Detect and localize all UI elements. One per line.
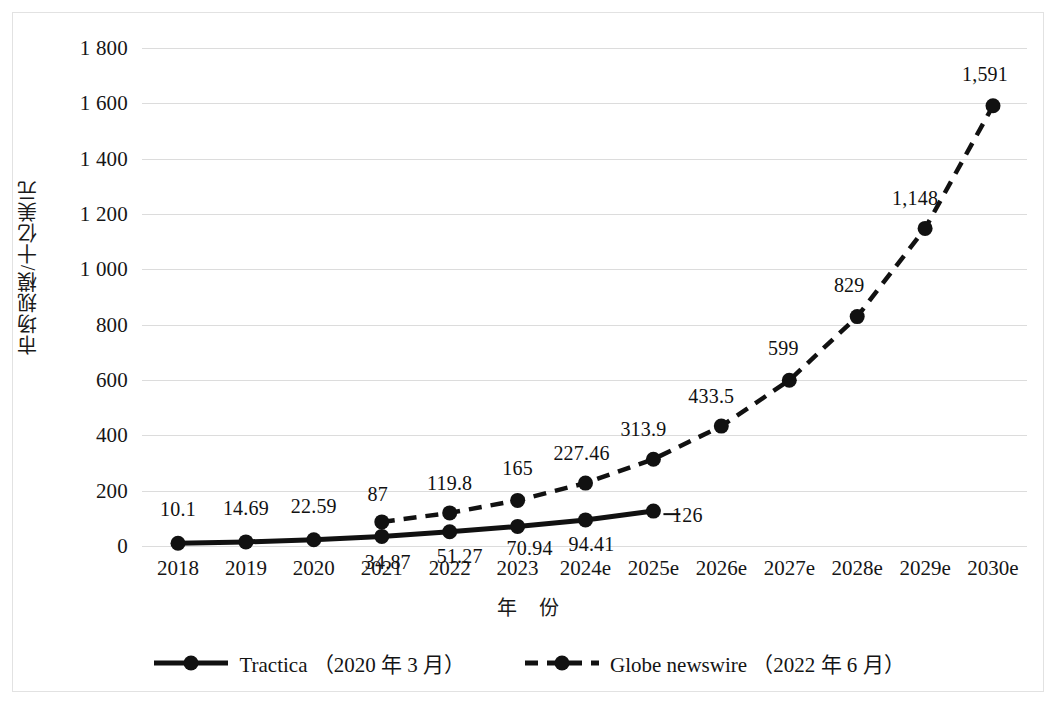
data-point-marker <box>646 504 661 519</box>
data-point-label: 10.1 <box>160 498 196 521</box>
data-point-marker <box>986 98 1001 113</box>
data-point-label: 94.41 <box>569 532 615 555</box>
x-axis-title: 年 份 <box>0 592 1057 621</box>
data-point-marker <box>374 514 389 529</box>
data-point-marker <box>510 519 525 534</box>
chart-legend: Tractica （2020 年 3 月）Globe newswire （202… <box>0 648 1057 678</box>
data-point-label: 165 <box>502 457 533 480</box>
chart-figure: 市场规模/十亿美元 02004006008001 0001 2001 4001 … <box>0 0 1057 704</box>
data-point-marker <box>918 221 933 236</box>
data-point-marker <box>171 536 186 551</box>
data-point-label: 1,148 <box>892 187 938 210</box>
legend-item[interactable]: Globe newswire （2022 年 6 月） <box>523 648 905 678</box>
data-point-label: 829 <box>834 273 865 296</box>
legend-dashed-line-icon <box>523 654 601 672</box>
data-point-marker <box>714 419 729 434</box>
data-point-marker <box>238 534 253 549</box>
y-axis-tick-label: 1 800 <box>80 36 128 61</box>
legend-item[interactable]: Tractica （2020 年 3 月） <box>152 648 465 678</box>
y-axis-tick-label: 0 <box>117 534 128 559</box>
data-point-label: 119.8 <box>427 471 472 494</box>
data-point-label: 313.9 <box>620 418 666 441</box>
y-axis-tick-labels: 02004006008001 0001 2001 4001 6001 800 <box>60 48 128 546</box>
data-point-marker <box>442 524 457 539</box>
x-axis-tick-label: 2018 <box>157 556 199 581</box>
x-axis-tick-label: 2029e <box>899 556 950 581</box>
data-point-label: 599 <box>768 337 799 360</box>
x-axis-tick-label: 2021 <box>361 556 403 581</box>
data-point-marker <box>578 512 593 527</box>
y-axis-tick-label: 1 400 <box>80 146 128 171</box>
x-axis-tick-label: 2024e <box>560 556 611 581</box>
x-axis-tick-label: 2030e <box>967 556 1018 581</box>
y-axis-title: 市场规模/十亿美元 <box>18 180 52 355</box>
x-axis-tick-label: 2019 <box>225 556 267 581</box>
x-axis-tick-labels: 2018201920202021202220232024e2025e2026e2… <box>142 556 1027 586</box>
legend-item-label: Globe newswire （2022 年 6 月） <box>610 648 905 678</box>
data-point-label: 227.46 <box>553 442 609 465</box>
plot-area: 10.114.6922.5934.8751.2770.9494.41126871… <box>142 48 1027 546</box>
x-axis-tick-label: 2026e <box>696 556 747 581</box>
data-point-label: 22.59 <box>291 494 337 517</box>
y-axis-tick-label: 600 <box>96 368 128 393</box>
x-axis-tick-label: 2027e <box>764 556 815 581</box>
y-axis-tick-label: 1 200 <box>80 202 128 227</box>
data-point-label: 87 <box>368 482 388 505</box>
data-point-label: 1,591 <box>962 62 1008 85</box>
data-point-marker <box>646 452 661 467</box>
legend-item-label: Tractica （2020 年 3 月） <box>239 648 465 678</box>
y-axis-tick-label: 1 000 <box>80 257 128 282</box>
data-point-label: 433.5 <box>688 385 734 408</box>
y-axis-tick-label: 400 <box>96 423 128 448</box>
y-axis-tick-label: 1 600 <box>80 91 128 116</box>
data-point-marker <box>442 505 457 520</box>
legend-solid-line-icon <box>152 654 230 672</box>
data-point-label: 126 <box>672 504 703 527</box>
series-canvas <box>142 48 1027 546</box>
x-axis-tick-label: 2025e <box>628 556 679 581</box>
y-axis-tick-label: 800 <box>96 312 128 337</box>
x-axis-tick-label: 2022 <box>429 556 471 581</box>
data-point-marker <box>850 309 865 324</box>
data-point-marker <box>510 493 525 508</box>
data-point-marker <box>374 529 389 544</box>
data-point-marker <box>306 532 321 547</box>
data-point-marker <box>578 476 593 491</box>
x-axis-tick-label: 2020 <box>293 556 335 581</box>
data-point-label: 14.69 <box>223 496 269 519</box>
x-axis-tick-label: 2028e <box>832 556 883 581</box>
data-point-marker <box>782 373 797 388</box>
x-axis-tick-label: 2023 <box>497 556 539 581</box>
y-axis-tick-label: 200 <box>96 478 128 503</box>
series-line <box>382 106 993 522</box>
